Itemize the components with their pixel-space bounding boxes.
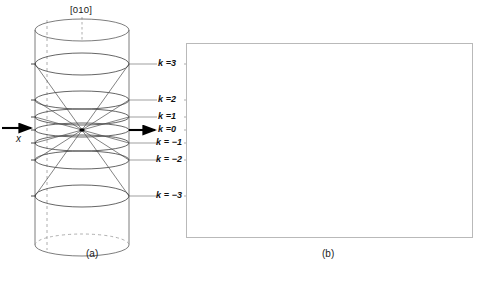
panel-b-diffraction-pattern	[186, 43, 473, 238]
panel-a-laue-cone-diagram: [010] x	[0, 0, 186, 283]
zone-label-k2: k =2	[158, 94, 176, 104]
laue-ring-k-3	[35, 185, 129, 207]
cylinder-bottom-back-arc	[35, 234, 129, 245]
diffraction-pattern-frame	[186, 43, 473, 238]
cylinder-bottom-front-arc	[35, 245, 129, 256]
zone-label-k-minus-1: k = −1	[156, 137, 182, 147]
zone-label-k-minus-3: k = −3	[156, 190, 182, 200]
zone-label-k1: k =1	[158, 111, 176, 121]
laue-ring-k-2	[35, 151, 129, 169]
zone-label-k0: k =0	[158, 124, 176, 134]
caption-panel-a: (a)	[86, 248, 98, 259]
x-axis-label: x	[16, 133, 21, 144]
zone-label-k-minus-2: k = −2	[156, 154, 182, 164]
laue-ring-k3	[35, 53, 129, 75]
crystal-direction-label: [010]	[70, 4, 92, 15]
laue-ring-k2	[35, 91, 129, 109]
zone-label-k3: k =3	[158, 58, 176, 68]
figure-root: [010] x	[0, 0, 484, 283]
cone-apex-marker	[79, 128, 84, 131]
caption-panel-b: (b)	[322, 248, 334, 259]
